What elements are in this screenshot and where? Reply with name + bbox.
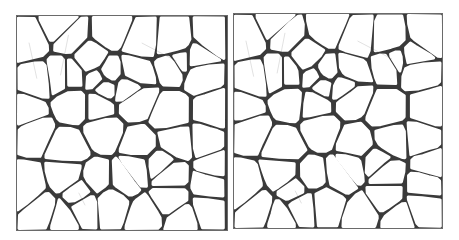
network-graph-right (234, 14, 442, 228)
network-graph-left (17, 16, 227, 230)
network-panel-right (233, 13, 443, 229)
network-panel-left (16, 15, 228, 231)
